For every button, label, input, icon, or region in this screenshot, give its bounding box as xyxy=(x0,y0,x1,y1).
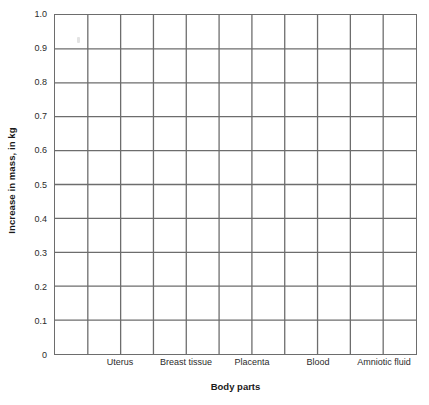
y-tick-label: 0.9 xyxy=(34,43,47,53)
x-tick-label: Placenta xyxy=(234,357,269,367)
x-tick-label: Blood xyxy=(306,357,329,367)
y-tick-label: 0.1 xyxy=(34,316,47,326)
y-tick-label: 0.4 xyxy=(34,214,47,224)
chart-figure: Increase in mass, in kg 1.00.90.80.70.60… xyxy=(0,0,429,405)
plot-area xyxy=(54,14,417,355)
y-tick-label: 0 xyxy=(42,350,47,360)
y-tick-label: 0.2 xyxy=(34,282,47,292)
y-axis-title-text: Increase in mass, in kg xyxy=(6,127,17,233)
y-axis-tick-labels: 1.00.90.80.70.60.50.40.30.20.10 xyxy=(20,14,51,355)
y-tick-label: 1.0 xyxy=(34,9,47,19)
y-tick-label: 0.5 xyxy=(34,180,47,190)
x-axis-title: Body parts xyxy=(54,381,417,392)
y-tick-label: 0.7 xyxy=(34,111,47,121)
x-axis-tick-labels: UterusBreast tissuePlacentaBloodAmniotic… xyxy=(54,357,417,373)
x-tick-label: Breast tissue xyxy=(160,357,212,367)
y-tick-label: 0.3 xyxy=(34,248,47,258)
y-axis-title: Increase in mass, in kg xyxy=(0,0,22,360)
scan-artifact-mark xyxy=(77,37,80,43)
y-tick-label: 0.8 xyxy=(34,77,47,87)
y-tick-label: 0.6 xyxy=(34,145,47,155)
x-tick-label: Uterus xyxy=(107,357,134,367)
x-tick-label: Amniotic fluid xyxy=(357,357,411,367)
grid-lines xyxy=(55,15,416,354)
